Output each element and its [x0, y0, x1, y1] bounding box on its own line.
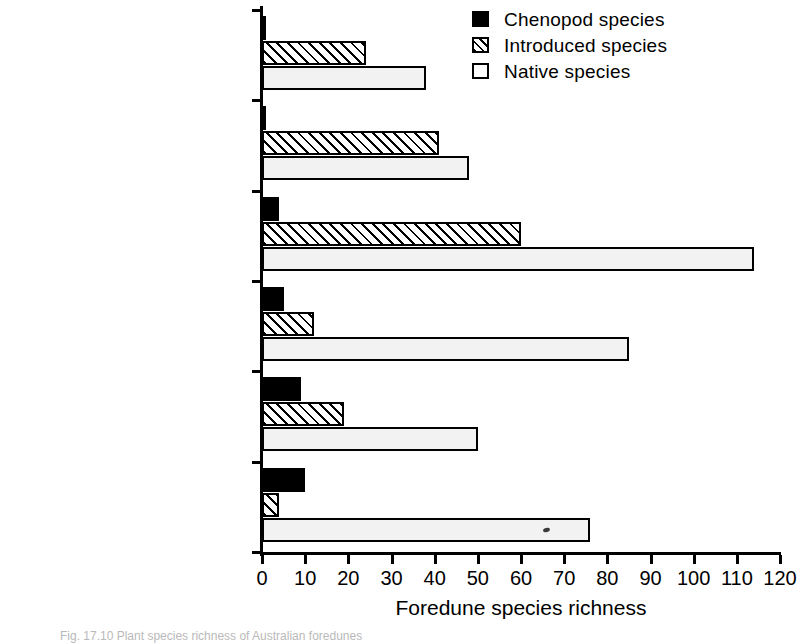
- x-axis-tick: [477, 555, 480, 564]
- x-axis-tick-label: 0: [256, 567, 267, 589]
- bar-native: [262, 337, 629, 361]
- x-axis-tick-label: 120: [763, 567, 796, 589]
- x-axis-tick-label: 90: [639, 567, 661, 589]
- x-axis-tick: [261, 555, 264, 564]
- x-axis-tick-label: 30: [380, 567, 402, 589]
- x-axis-tick-label: 50: [467, 567, 489, 589]
- y-axis-tick: [252, 461, 261, 464]
- x-axis-title: Foredune species richness: [262, 596, 780, 620]
- x-axis-tick: [391, 555, 394, 564]
- y-axis-tick: [252, 99, 261, 102]
- bar-introduced: [262, 493, 279, 517]
- x-axis-tick: [304, 555, 307, 564]
- plot-area: 0102030405060708090100110120Coral CaysTr…: [262, 10, 780, 552]
- x-axis-tick-label: 40: [424, 567, 446, 589]
- x-axis-tick-label: 70: [553, 567, 575, 589]
- bar-native: [262, 247, 754, 271]
- bar-native: [262, 427, 478, 451]
- x-axis-tick: [347, 555, 350, 564]
- x-axis-tick-label: 60: [510, 567, 532, 589]
- figure-caption: Fig. 17.10 Plant species richness of Aus…: [60, 629, 490, 643]
- x-axis-tick: [606, 555, 609, 564]
- x-axis-tick-label: 20: [337, 567, 359, 589]
- x-axis-tick-label: 80: [596, 567, 618, 589]
- bar-introduced: [262, 222, 521, 246]
- bar-native: [262, 156, 469, 180]
- bar-native: [262, 518, 590, 542]
- chart-figure: Chenopod species Introduced species Nati…: [0, 0, 810, 644]
- x-axis-tick-label: 100: [677, 567, 710, 589]
- bar-introduced: [262, 402, 344, 426]
- x-axis-tick: [736, 555, 739, 564]
- x-axis-tick: [520, 555, 523, 564]
- y-axis-tick: [252, 551, 261, 554]
- y-axis-tick: [252, 370, 261, 373]
- x-axis-tick: [650, 555, 653, 564]
- bar-native: [262, 66, 426, 90]
- bar-introduced: [262, 41, 366, 65]
- bar-chenopod: [262, 377, 301, 401]
- bar-chenopod: [262, 197, 279, 221]
- bar-chenopod: [262, 16, 266, 40]
- bar-chenopod: [262, 106, 266, 130]
- x-axis-tick: [434, 555, 437, 564]
- bar-introduced: [262, 131, 439, 155]
- y-axis-tick: [252, 9, 261, 12]
- y-axis-tick: [252, 190, 261, 193]
- bar-introduced: [262, 312, 314, 336]
- x-axis-tick-label: 110: [721, 567, 753, 589]
- x-axis-tick: [563, 555, 566, 564]
- y-axis-tick: [252, 280, 261, 283]
- x-axis-tick-label: 10: [294, 567, 316, 589]
- bar-chenopod: [262, 468, 305, 492]
- bar-chenopod: [262, 287, 284, 311]
- x-axis-tick: [779, 555, 782, 564]
- x-axis-tick: [693, 555, 696, 564]
